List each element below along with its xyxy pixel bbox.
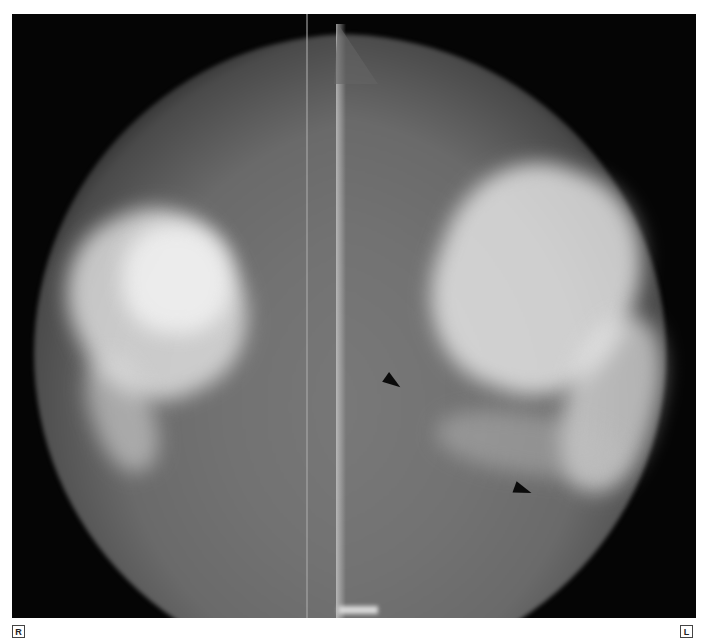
film-edge-line [306,14,308,618]
bright-artifact [338,606,378,614]
right-breast-view [12,14,336,618]
mammogram-film [12,14,696,618]
nipple-peak [334,24,378,84]
fibroglandular-tissue [122,224,232,334]
right-side-label: R [12,625,25,638]
left-side-label: L [680,625,693,638]
left-breast-view [336,14,696,618]
pectoral-muscle-edge [336,24,346,618]
